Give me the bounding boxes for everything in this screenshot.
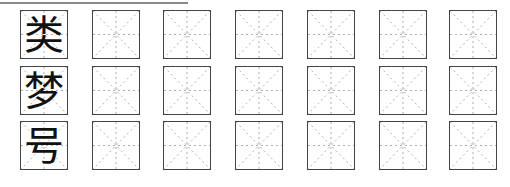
practice-cell[interactable] [379,121,427,170]
mi-zi-guide-icon [236,67,282,114]
practice-cell[interactable] [235,10,283,59]
practice-cell[interactable] [92,121,140,170]
practice-cell[interactable] [92,66,140,115]
mi-zi-guide-icon [308,122,354,169]
practice-cell[interactable] [163,121,211,170]
model-character-cell: 号 [20,121,68,170]
mi-zi-guide-icon [236,11,282,58]
mi-zi-guide-icon [93,11,139,58]
mi-zi-guide-icon [93,122,139,169]
practice-cell[interactable] [307,121,355,170]
practice-cell[interactable] [449,121,497,170]
mi-zi-guide-icon [164,67,210,114]
practice-cell[interactable] [307,66,355,115]
practice-cell[interactable] [379,66,427,115]
model-character: 号 [21,122,67,169]
model-character-cell: 梦 [20,66,68,115]
mi-zi-guide-icon [308,11,354,58]
model-character-cell: 类 [20,10,68,59]
practice-cell[interactable] [163,66,211,115]
mi-zi-guide-icon [164,11,210,58]
mi-zi-guide-icon [450,67,496,114]
model-character: 梦 [21,67,67,114]
mi-zi-guide-icon [380,67,426,114]
practice-cell[interactable] [379,10,427,59]
mi-zi-guide-icon [164,122,210,169]
practice-cell[interactable] [235,66,283,115]
mi-zi-guide-icon [380,11,426,58]
mi-zi-guide-icon [380,122,426,169]
practice-cell[interactable] [449,66,497,115]
mi-zi-guide-icon [236,122,282,169]
mi-zi-guide-icon [308,67,354,114]
practice-cell[interactable] [235,121,283,170]
mi-zi-guide-icon [93,67,139,114]
mi-zi-guide-icon [450,11,496,58]
practice-cell[interactable] [307,10,355,59]
mi-zi-guide-icon [450,122,496,169]
model-character: 类 [21,11,67,58]
top-rule-line [0,2,188,4]
practice-cell[interactable] [92,10,140,59]
practice-cell[interactable] [449,10,497,59]
practice-cell[interactable] [163,10,211,59]
